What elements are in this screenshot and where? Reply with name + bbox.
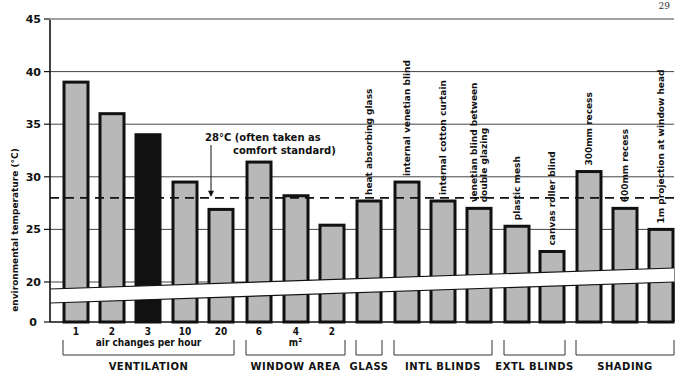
bracket-2: [356, 340, 382, 355]
y-tick-20: 20: [26, 276, 42, 289]
bar-label: heat absorbing glass: [364, 89, 374, 195]
bar-label: canvas roller blind: [547, 151, 557, 245]
bar-20: [209, 209, 233, 322]
x-tick-label: 20: [215, 326, 228, 337]
bar-label: 1m projection at window head: [656, 70, 666, 224]
bar-label: internal venetian blind: [402, 60, 412, 176]
bracket-4: [504, 340, 565, 355]
group-sublabel: air changes per hour: [96, 337, 202, 348]
x-tick-label: 2: [109, 326, 115, 337]
comfort-annotation-line2: comfort standard): [233, 145, 336, 156]
bar-internal-venetian-blind: [395, 182, 419, 322]
group-label: GLASS: [350, 361, 389, 372]
comfort-annotation-line1: 28°C (often taken as: [205, 132, 321, 143]
bar-1: [64, 82, 88, 322]
group-label: EXTL BLINDS: [495, 361, 573, 372]
x-tick-label: 6: [256, 326, 262, 337]
bar-heat-absorbing-glass: [357, 201, 381, 322]
x-tick-label: 10: [179, 326, 192, 337]
y-tick-0: 0: [29, 316, 37, 329]
bar-label: venetian blind between: [469, 83, 479, 203]
bar-internal-cotton-curtain: [431, 201, 455, 322]
group-label: INTL BLINDS: [405, 361, 481, 372]
y-axis-label: environmental temperature (°C): [10, 148, 20, 312]
y-tick-40: 40: [26, 66, 42, 79]
x-tick-label: 2: [329, 326, 335, 337]
y-tick-25: 25: [26, 223, 41, 236]
bar-2: [320, 225, 344, 322]
x-tick-label: 4: [293, 326, 299, 337]
bar-6: [247, 162, 271, 322]
x-tick-label: 3: [145, 326, 151, 337]
bar-venetian-blind-between-double-glazing: [467, 208, 491, 322]
bar-300mm-recess: [577, 172, 601, 322]
group-sublabel: m²: [289, 337, 302, 348]
bar-label: plastic mesh: [512, 156, 522, 220]
bar-label: 300mm recess: [584, 92, 594, 165]
bracket-5: [576, 340, 674, 355]
chart: 2025303540450 28°C (often taken ascomfor…: [0, 0, 684, 377]
bar-label: 600mm recess: [620, 129, 630, 202]
x-tick-label: 1: [73, 326, 79, 337]
y-tick-30: 30: [26, 171, 42, 184]
y-tick-45: 45: [26, 13, 41, 26]
group-label: SHADING: [597, 361, 652, 372]
y-tick-35: 35: [26, 118, 41, 131]
arrow-icon: [208, 191, 214, 197]
bar-600mm-recess: [613, 208, 637, 322]
bracket-3: [394, 340, 492, 355]
group-label: VENTILATION: [109, 361, 189, 372]
page-number: 29: [659, 1, 671, 11]
bar-4: [284, 196, 308, 322]
bar-10: [173, 182, 197, 322]
group-label: WINDOW AREA: [251, 361, 341, 372]
bar-label: double glazing: [479, 128, 489, 203]
bar-label: internal cotton curtain: [438, 80, 448, 195]
